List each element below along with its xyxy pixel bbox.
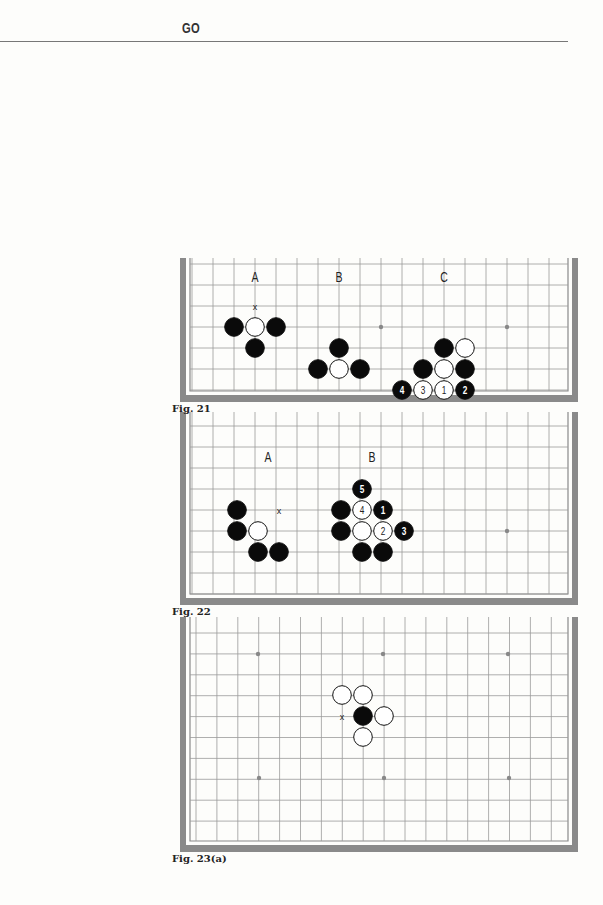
black-stone [249,543,268,562]
figure-fig22: ABx54123 [180,412,578,605]
white-stone: 1 [435,381,454,400]
white-stone: 2 [374,522,393,541]
black-stone [246,339,265,358]
position-label: B [368,450,375,466]
star-point [505,325,509,329]
white-stone [330,360,349,379]
black-stone [225,318,244,337]
black-stone [351,360,370,379]
figure-caption: Fig. 21 [172,403,211,414]
position-label: A [251,270,259,286]
white-stone [354,728,373,747]
black-stone [270,543,289,562]
black-stone [332,522,351,541]
point-mark-x: x [277,506,282,516]
black-stone [267,318,286,337]
black-stone: 5 [353,480,372,499]
white-stone [456,339,475,358]
go-diagrams: ABCx4312ABx54123x [0,0,603,905]
move-number: 4 [360,504,365,516]
star-point [505,529,509,533]
move-number: 5 [360,483,365,495]
black-stone [309,360,328,379]
black-stone [353,543,372,562]
black-stone [435,339,454,358]
black-stone [228,522,247,541]
star-point [506,652,510,656]
white-stone [249,522,268,541]
white-stone [246,318,265,337]
white-stone [375,707,394,726]
black-stone [354,707,373,726]
black-stone [330,339,349,358]
black-stone [374,543,393,562]
move-number: 1 [381,504,386,516]
figure-fig21: ABCx4312 [180,258,578,402]
white-stone [354,686,373,705]
move-number: 3 [402,525,407,537]
board-grid [190,617,568,841]
white-stone [333,686,352,705]
move-number: 2 [381,525,386,537]
white-stone [435,360,454,379]
position-label: A [264,450,272,466]
move-number: 2 [463,384,468,396]
black-stone: 4 [393,381,412,400]
black-stone: 2 [456,381,475,400]
star-point [382,776,386,780]
move-number: 4 [400,384,405,396]
white-stone [353,522,372,541]
black-stone [228,501,247,520]
figure-caption: Fig. 22 [172,606,211,617]
white-stone: 3 [414,381,433,400]
figure-fig23a: x [180,617,578,852]
board-border [180,617,578,852]
black-stone [414,360,433,379]
star-point [379,325,383,329]
star-point [257,776,261,780]
black-stone [332,501,351,520]
figure-caption: Fig. 23(a) [172,853,227,864]
star-point [381,652,385,656]
position-label: C [440,270,448,286]
point-mark-x: x [340,712,345,722]
white-stone: 4 [353,501,372,520]
black-stone [456,360,475,379]
position-label: B [335,270,342,286]
black-stone: 1 [374,501,393,520]
move-number: 1 [442,384,447,396]
star-point [507,776,511,780]
black-stone: 3 [395,522,414,541]
point-mark-x: x [253,302,258,312]
star-point [256,652,260,656]
move-number: 3 [421,384,426,396]
